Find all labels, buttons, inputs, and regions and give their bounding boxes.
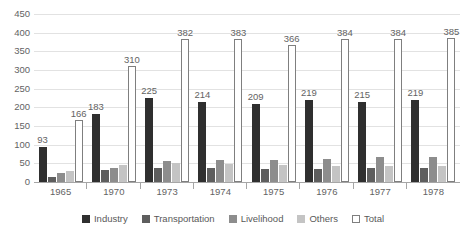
bar-group: 93166 xyxy=(34,14,87,182)
bar-group: 209366 xyxy=(247,14,300,182)
y-axis-tick-label: 450 xyxy=(14,9,30,19)
y-axis-tick-label: 50 xyxy=(19,158,30,168)
bar-livelihood[interactable] xyxy=(429,157,437,182)
x-axis-tick-label: 1978 xyxy=(407,185,460,201)
bar-value-label: 310 xyxy=(124,55,140,65)
bar-total[interactable]: 366 xyxy=(288,45,296,182)
y-axis-tick-label: 400 xyxy=(14,28,30,38)
x-axis-tick-label: 1974 xyxy=(194,185,247,201)
bar-total[interactable]: 382 xyxy=(181,39,189,182)
legend-item-others[interactable]: Others xyxy=(297,214,338,224)
legend-item-transportation[interactable]: Transportation xyxy=(142,214,215,224)
bar-livelihood[interactable] xyxy=(110,168,118,182)
bar-value-label: 209 xyxy=(248,92,264,102)
bar-chart: 450400350300250200150100500 931661833102… xyxy=(0,0,466,239)
bar-value-label: 384 xyxy=(390,28,406,38)
y-axis-tick-label: 0 xyxy=(25,177,30,187)
bar-industry[interactable]: 219 xyxy=(305,100,313,182)
bar-industry[interactable]: 209 xyxy=(252,104,260,182)
bar-transportation[interactable] xyxy=(261,169,269,182)
bar-value-label: 183 xyxy=(88,102,104,112)
bar-group: 215384 xyxy=(354,14,407,182)
bar-group: 219384 xyxy=(300,14,353,182)
legend-swatch-icon xyxy=(297,215,305,223)
legend-item-label: Transportation xyxy=(154,214,215,224)
bar-group: 219385 xyxy=(407,14,460,182)
bar-transportation[interactable] xyxy=(207,168,215,182)
bar-livelihood[interactable] xyxy=(57,173,65,182)
legend-item-industry[interactable]: Industry xyxy=(82,214,128,224)
bar-total[interactable]: 310 xyxy=(128,66,136,182)
y-axis: 450400350300250200150100500 xyxy=(0,14,30,182)
bar-others[interactable] xyxy=(119,165,127,182)
bar-transportation[interactable] xyxy=(101,170,109,182)
bar-total[interactable]: 383 xyxy=(234,39,242,182)
plot-area: 9316618331022538221438320936621938421538… xyxy=(34,14,460,182)
bar-others[interactable] xyxy=(225,164,233,182)
x-axis-tick-label: 1973 xyxy=(141,185,194,201)
bar-livelihood[interactable] xyxy=(376,157,384,182)
bar-livelihood[interactable] xyxy=(216,160,224,182)
bar-value-label: 166 xyxy=(71,109,87,119)
bar-livelihood[interactable] xyxy=(270,160,278,182)
bar-value-label: 93 xyxy=(37,135,48,145)
bar-value-label: 215 xyxy=(354,90,370,100)
bar-value-label: 382 xyxy=(177,28,193,38)
bar-industry[interactable]: 214 xyxy=(198,102,206,182)
legend-item-label: Industry xyxy=(94,214,128,224)
y-axis-tick-label: 350 xyxy=(14,46,30,56)
bar-group: 214383 xyxy=(194,14,247,182)
bar-value-label: 385 xyxy=(443,27,459,37)
bar-others[interactable] xyxy=(332,166,340,182)
bar-total[interactable]: 384 xyxy=(341,39,349,182)
chart-legend: IndustryTransportationLivelihoodOthersTo… xyxy=(0,210,466,228)
legend-swatch-icon xyxy=(82,215,90,223)
x-axis-tick-label: 1977 xyxy=(354,185,407,201)
bar-total[interactable]: 166 xyxy=(75,120,83,182)
bar-value-label: 383 xyxy=(230,28,246,38)
legend-swatch-icon xyxy=(352,215,360,223)
bar-transportation[interactable] xyxy=(367,168,375,182)
legend-item-total[interactable]: Total xyxy=(352,214,384,224)
bar-others[interactable] xyxy=(385,166,393,182)
bar-industry[interactable]: 183 xyxy=(92,114,100,182)
x-axis: 19651970197319741975197619771978 xyxy=(34,185,460,201)
x-axis-tick-label: 1965 xyxy=(34,185,87,201)
legend-item-livelihood[interactable]: Livelihood xyxy=(229,214,284,224)
bar-others[interactable] xyxy=(438,166,446,182)
bar-total[interactable]: 384 xyxy=(394,39,402,182)
bar-group: 225382 xyxy=(141,14,194,182)
legend-item-label: Total xyxy=(364,214,384,224)
bar-transportation[interactable] xyxy=(154,168,162,182)
bar-industry[interactable]: 219 xyxy=(411,100,419,182)
bar-total[interactable]: 385 xyxy=(447,38,455,182)
bar-others[interactable] xyxy=(172,163,180,182)
bar-others[interactable] xyxy=(279,165,287,182)
bar-value-label: 219 xyxy=(407,88,423,98)
axis-baseline xyxy=(34,182,460,183)
x-axis-tick-label: 1975 xyxy=(247,185,300,201)
bar-others[interactable] xyxy=(66,171,74,182)
bar-groups: 9316618331022538221438320936621938421538… xyxy=(34,14,460,182)
bar-transportation[interactable] xyxy=(420,168,428,182)
y-axis-tick-label: 150 xyxy=(14,121,30,131)
bar-industry[interactable]: 93 xyxy=(39,147,47,182)
y-axis-tick-label: 300 xyxy=(14,65,30,75)
bar-transportation[interactable] xyxy=(314,169,322,182)
bar-value-label: 225 xyxy=(141,86,157,96)
bar-value-label: 366 xyxy=(284,34,300,44)
bar-livelihood[interactable] xyxy=(163,161,171,182)
bar-transportation[interactable] xyxy=(48,177,56,182)
y-axis-tick-label: 250 xyxy=(14,84,30,94)
bar-industry[interactable]: 225 xyxy=(145,98,153,182)
bar-value-label: 214 xyxy=(194,90,210,100)
bar-industry[interactable]: 215 xyxy=(358,102,366,182)
x-axis-tick-label: 1976 xyxy=(300,185,353,201)
x-axis-tick-label: 1970 xyxy=(87,185,140,201)
bar-value-label: 219 xyxy=(301,88,317,98)
bar-group: 183310 xyxy=(87,14,140,182)
legend-swatch-icon xyxy=(142,215,150,223)
y-axis-tick-label: 100 xyxy=(14,140,30,150)
bar-livelihood[interactable] xyxy=(323,159,331,182)
legend-item-label: Livelihood xyxy=(241,214,284,224)
